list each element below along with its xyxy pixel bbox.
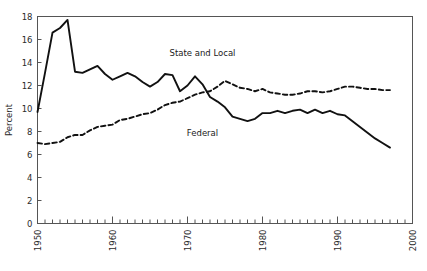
y-tick-label-2: 2 — [27, 196, 32, 206]
y-tick-label-14: 14 — [22, 58, 33, 68]
y-tick-label-18: 18 — [22, 12, 33, 22]
y-tick-label-6: 6 — [27, 150, 32, 160]
x-axis-minor-ticks — [38, 220, 413, 224]
y-tick-label-10: 10 — [22, 104, 33, 114]
y-tick-label-12: 12 — [22, 81, 33, 91]
x-tick-label-1970: 1970 — [183, 230, 193, 252]
y-axis: 024681012141618 — [22, 12, 42, 229]
x-tick-label-1980: 1980 — [258, 230, 268, 252]
y-tick-label-8: 8 — [27, 127, 32, 137]
x-tick-label-1990: 1990 — [333, 230, 343, 252]
chart-container: 024681012141618 195019601970198019902000… — [0, 0, 427, 271]
y-tick-label-0: 0 — [27, 219, 32, 229]
series-label-federal: Federal — [187, 128, 218, 138]
x-tick-label-2000: 2000 — [408, 230, 418, 252]
y-tick-label-16: 16 — [22, 35, 33, 45]
x-tick-label-1960: 1960 — [108, 230, 118, 252]
y-tick-label-4: 4 — [27, 173, 32, 183]
x-tick-label-1950: 1950 — [33, 230, 43, 252]
y-axis-title: Percent — [4, 103, 14, 136]
line-chart: 024681012141618 195019601970198019902000… — [0, 0, 427, 271]
series-label-state-and-local: State and Local — [170, 48, 236, 58]
